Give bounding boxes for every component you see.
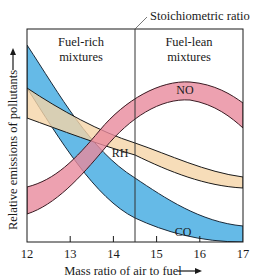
- emissions-chart: Stoichiometric ratio Fuel-rich mixtures …: [0, 0, 257, 279]
- svg-text:17: 17: [237, 247, 250, 261]
- rh-series-label: RH: [112, 146, 129, 160]
- x-axis-arrowhead-icon: [195, 268, 202, 274]
- fuel-lean-label-1: Fuel-lean: [165, 35, 213, 49]
- stoichiometric-label: Stoichiometric ratio: [150, 9, 250, 23]
- stoichiometric-leader: [135, 17, 147, 29]
- fuel-lean-label-2: mixtures: [167, 50, 211, 64]
- fuel-rich-label-2: mixtures: [59, 50, 103, 64]
- y-axis-label: Relative emissions of pollutants: [6, 70, 20, 230]
- fuel-rich-label-1: Fuel-rich: [58, 35, 105, 49]
- x-tick-labels: 12 13 14 15 16 17: [21, 247, 250, 261]
- y-axis-arrowhead-icon: [10, 48, 16, 55]
- svg-text:12: 12: [21, 247, 34, 261]
- co-series-label: CO: [175, 225, 192, 239]
- svg-text:13: 13: [64, 247, 77, 261]
- svg-text:15: 15: [150, 247, 163, 261]
- svg-text:14: 14: [107, 247, 120, 261]
- no-series-label: NO: [176, 83, 194, 97]
- svg-text:16: 16: [194, 247, 207, 261]
- x-axis-label: Mass ratio of air to fuel: [64, 264, 182, 278]
